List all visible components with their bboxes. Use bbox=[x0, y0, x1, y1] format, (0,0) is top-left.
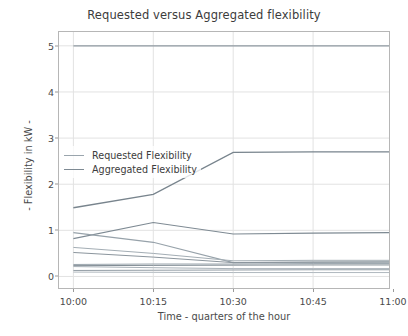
legend-line-icon bbox=[64, 169, 84, 170]
chart-series-line bbox=[73, 270, 389, 271]
y-tick-label: 4 bbox=[32, 86, 54, 97]
x-tick-label: 10:00 bbox=[60, 296, 87, 307]
y-axis-ticks: 012345 bbox=[30, 31, 54, 289]
x-tick-mark bbox=[393, 289, 394, 292]
chart-series-line bbox=[73, 233, 389, 263]
y-tick-label: 2 bbox=[32, 179, 54, 190]
y-tick-label: 5 bbox=[32, 40, 54, 51]
x-tick-mark bbox=[153, 289, 154, 292]
x-axis-ticks: 10:0010:1510:3010:4511:00 bbox=[58, 289, 390, 311]
y-tick-label: 0 bbox=[32, 271, 54, 282]
chart-series-line bbox=[73, 265, 389, 266]
y-tick-label: 3 bbox=[32, 133, 54, 144]
legend-item: Aggregated Flexibility bbox=[64, 162, 197, 176]
chart-figure: Requested versus Aggregated flexibility … bbox=[0, 0, 408, 336]
x-tick-label: 10:30 bbox=[219, 296, 246, 307]
x-tick-label: 11:00 bbox=[379, 296, 406, 307]
legend-label: Aggregated Flexibility bbox=[92, 164, 197, 175]
chart-legend: Requested FlexibilityAggregated Flexibil… bbox=[60, 146, 201, 178]
legend-line-icon bbox=[64, 155, 84, 156]
x-tick-mark bbox=[313, 289, 314, 292]
chart-series-line bbox=[73, 264, 389, 265]
chart-series-line bbox=[73, 247, 389, 260]
x-tick-mark bbox=[233, 289, 234, 292]
x-axis-label: Time - quarters of the hour bbox=[58, 311, 390, 322]
legend-item: Requested Flexibility bbox=[64, 148, 197, 162]
chart-series-line bbox=[73, 267, 389, 269]
chart-series-line bbox=[73, 252, 389, 262]
legend-label: Requested Flexibility bbox=[92, 150, 192, 161]
x-tick-label: 10:15 bbox=[140, 296, 167, 307]
x-tick-mark bbox=[73, 289, 74, 292]
chart-title: Requested versus Aggregated flexibility bbox=[0, 8, 408, 22]
x-tick-label: 10:45 bbox=[299, 296, 326, 307]
y-tick-label: 1 bbox=[32, 225, 54, 236]
